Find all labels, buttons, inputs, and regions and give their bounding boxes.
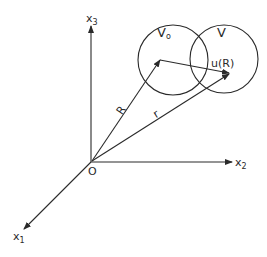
region-v0-circle	[138, 25, 208, 95]
u-label: u(R)	[211, 57, 234, 70]
r-label: r	[151, 107, 162, 121]
R-label: R	[114, 103, 129, 117]
x1-label: x1	[13, 230, 25, 245]
displacement-diagram: x3 x2 x1 O Vo V u(R) R r	[0, 0, 267, 257]
origin-label: O	[88, 165, 97, 178]
x2-label: x2	[235, 156, 247, 171]
x1-axis	[24, 162, 91, 229]
x3-label: x3	[86, 12, 98, 27]
v0-label: Vo	[157, 25, 171, 41]
v-label: V	[217, 25, 226, 40]
